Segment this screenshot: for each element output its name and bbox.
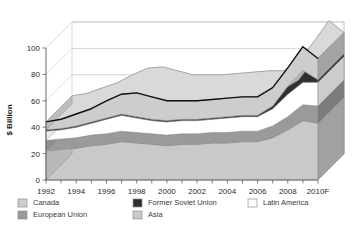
y-axis-title: $ Billion bbox=[5, 104, 14, 135]
legend-item[interactable]: Canada bbox=[18, 198, 60, 207]
x-tick-label: 2010F bbox=[307, 187, 330, 196]
x-tick-label: 2002 bbox=[188, 187, 206, 196]
y-tick-label: 60 bbox=[31, 97, 40, 106]
y-axis-title-group: $ Billion bbox=[5, 104, 14, 135]
chart-container: 020406080100 199219941996199820002002200… bbox=[0, 0, 353, 232]
legend-item[interactable]: Latin America bbox=[248, 198, 309, 207]
legend-swatch bbox=[133, 199, 142, 207]
y-tick-label: 40 bbox=[31, 123, 40, 132]
legend-label: Latin America bbox=[263, 198, 309, 207]
legend-label: Canada bbox=[33, 198, 60, 207]
legend-swatch bbox=[18, 211, 27, 219]
legend-label: European Union bbox=[33, 210, 87, 219]
y-tick-label: 100 bbox=[27, 44, 41, 53]
legend-swatch bbox=[133, 211, 142, 219]
x-tick-label: 1994 bbox=[67, 187, 85, 196]
x-tick-label: 2000 bbox=[158, 187, 176, 196]
x-tick-label: 2006 bbox=[249, 187, 267, 196]
x-tick-label: 1998 bbox=[128, 187, 146, 196]
x-tick-label: 2004 bbox=[218, 187, 236, 196]
y-tick-label: 0 bbox=[36, 176, 41, 185]
y-tick-label: 80 bbox=[31, 70, 40, 79]
x-tick-label: 1996 bbox=[98, 187, 116, 196]
y-tick-label: 20 bbox=[31, 150, 40, 159]
legend-label: Former Soviet Union bbox=[148, 198, 217, 207]
area-chart-3d: 020406080100 199219941996199820002002200… bbox=[0, 0, 353, 232]
x-tick-label: 1992 bbox=[37, 187, 55, 196]
legend-label: Asia bbox=[148, 210, 163, 219]
x-tick-label: 2008 bbox=[279, 187, 297, 196]
legend-item[interactable]: Asia bbox=[133, 210, 163, 219]
legend-swatch bbox=[248, 199, 257, 207]
legend-swatch bbox=[18, 199, 27, 207]
